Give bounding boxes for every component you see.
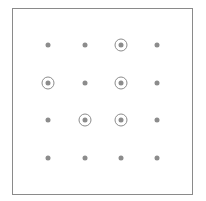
grid-dot: [46, 118, 51, 123]
dot-highlight-ring: [42, 77, 55, 90]
grid-dot: [83, 81, 88, 86]
dot-highlight-ring: [79, 114, 92, 127]
dot-highlight-ring: [115, 39, 128, 52]
dot-highlight-ring: [115, 114, 128, 127]
grid-dot: [83, 156, 88, 161]
grid-dot: [119, 156, 124, 161]
grid-dot: [155, 81, 160, 86]
grid-dot: [46, 156, 51, 161]
dot-highlight-ring: [115, 77, 128, 90]
grid-dot: [155, 118, 160, 123]
grid-frame: [12, 8, 193, 195]
grid-dot: [155, 43, 160, 48]
grid-dot: [83, 43, 88, 48]
grid-dot: [155, 156, 160, 161]
grid-dot: [46, 43, 51, 48]
